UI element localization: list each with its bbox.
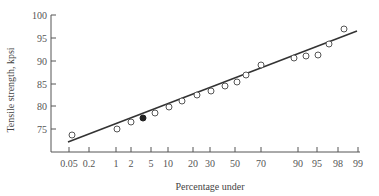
data-point — [303, 53, 309, 59]
data-point — [234, 79, 240, 85]
highlighted-data-point — [140, 115, 146, 121]
x-axis: 0.050.2125102030507090959899 — [51, 147, 363, 169]
y-tick-label: 75 — [37, 124, 47, 135]
x-tick-label: 90 — [293, 158, 303, 169]
data-point — [341, 26, 347, 32]
data-point — [291, 55, 297, 61]
data-point — [222, 83, 228, 89]
data-point — [194, 92, 200, 98]
x-tick-label: 20 — [188, 158, 198, 169]
x-tick-label: 95 — [312, 158, 322, 169]
y-tick-label: 95 — [37, 33, 47, 44]
data-point — [315, 52, 321, 58]
y-tick-label: 80 — [37, 101, 47, 112]
data-point — [69, 132, 75, 138]
data-point — [243, 72, 249, 78]
x-axis-title: Percentage under — [175, 181, 245, 192]
x-tick-label: 0.2 — [83, 158, 96, 169]
y-tick-label: 85 — [37, 79, 47, 90]
y-axis-title: Tensile strength, kpsi — [5, 47, 16, 132]
x-tick-label: 30 — [205, 158, 215, 169]
x-tick-label: 50 — [230, 158, 240, 169]
data-point — [208, 88, 214, 94]
x-tick-label: 70 — [256, 158, 266, 169]
data-point — [179, 98, 185, 104]
data-point — [326, 41, 332, 47]
data-point — [258, 62, 264, 68]
x-tick-label: 0.05 — [60, 158, 78, 169]
data-point — [152, 110, 158, 116]
x-tick-label: 5 — [149, 158, 154, 169]
x-tick-label: 1 — [114, 158, 119, 169]
y-tick-label: 100 — [32, 10, 47, 21]
data-point — [128, 119, 134, 125]
y-axis: 7580859095100 — [32, 10, 56, 153]
x-tick-label: 2 — [129, 158, 134, 169]
y-tick-label: 90 — [37, 56, 47, 67]
probability-plot: 7580859095100 0.050.21251020305070909598… — [0, 0, 379, 196]
fit-line — [68, 31, 357, 142]
data-point — [166, 104, 172, 110]
data-points — [69, 26, 347, 138]
x-tick-label: 99 — [353, 158, 363, 169]
x-tick-label: 10 — [163, 158, 173, 169]
data-point — [114, 126, 120, 132]
x-tick-label: 98 — [333, 158, 343, 169]
